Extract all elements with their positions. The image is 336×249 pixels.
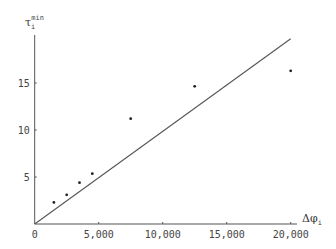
y-axis-label: τimin	[25, 14, 44, 31]
data-point	[65, 193, 68, 196]
y-tick-label: 10	[18, 125, 30, 136]
x-axis-label: Δφi	[302, 212, 322, 227]
scatter-chart: 05,00010,00015,00020,00051015 τimin Δφi	[0, 0, 336, 249]
data-point	[289, 69, 292, 72]
data-point	[78, 181, 81, 184]
x-tick-label: 15,000	[209, 229, 245, 240]
y-tick-label: 5	[24, 172, 30, 183]
data-point	[53, 201, 56, 204]
x-tick-label: 20,000	[273, 229, 309, 240]
tick-labels: 05,00010,00015,00020,00051015	[18, 78, 309, 241]
x-tick-label: 0	[32, 229, 38, 240]
y-tick-label: 15	[18, 78, 30, 89]
data-point	[193, 85, 196, 88]
x-tick-label: 10,000	[145, 229, 181, 240]
x-tick-label: 5,000	[84, 229, 114, 240]
diagonal-line	[35, 39, 291, 224]
reference-line	[35, 39, 291, 224]
data-point	[129, 117, 132, 120]
data-points	[53, 69, 293, 203]
data-point	[91, 172, 94, 175]
